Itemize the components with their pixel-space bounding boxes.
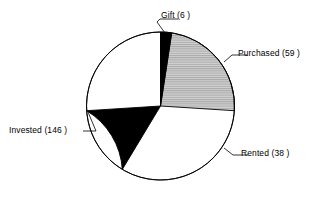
pie-label-rented: Rented (38 ) — [241, 148, 289, 158]
pie-label-gift: Gift (6 ) — [161, 10, 190, 20]
pie-slice-purchased[interactable] — [161, 33, 235, 111]
pie-chart: Gift (6 ) Purchased (59 ) Rented (38 ) I… — [0, 0, 315, 202]
pie-chart-canvas — [0, 0, 315, 202]
pie-label-invested: Invested (146 ) — [9, 125, 67, 135]
leader-line-gift — [157, 19, 178, 33]
pie-label-purchased: Purchased (59 ) — [238, 48, 300, 58]
